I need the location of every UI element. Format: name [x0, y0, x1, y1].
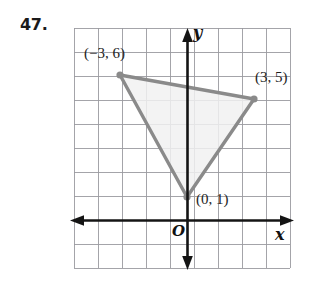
x-axis-label: x: [275, 227, 285, 243]
point-label-0-1: (0, 1): [196, 192, 229, 207]
point-label-neg3-6: (−3, 6): [84, 46, 125, 61]
vertex-dot-3-5: [250, 95, 257, 102]
origin-label: O: [172, 224, 185, 239]
vertex-dot-neg3-6: [116, 71, 123, 78]
figure-root: 47.: [0, 0, 318, 287]
y-axis-label: y: [193, 25, 202, 41]
point-label-3-5: (3, 5): [255, 70, 288, 85]
coordinate-plane: [0, 0, 318, 287]
